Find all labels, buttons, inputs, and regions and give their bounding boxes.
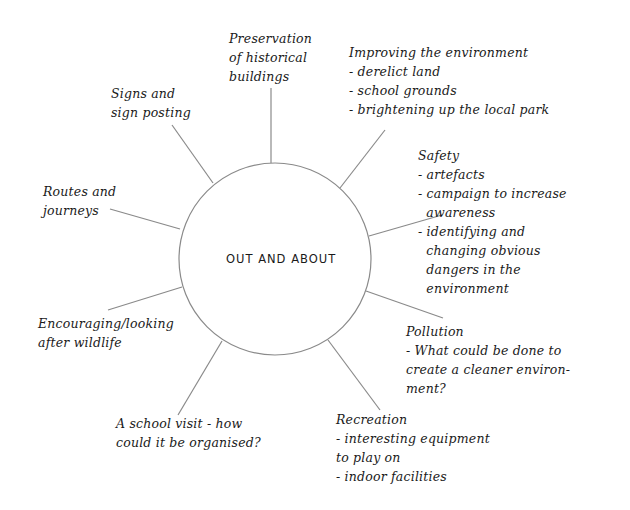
branch-text-line: to play on xyxy=(336,448,490,467)
branch-label-recreation: Recreation- interesting equipmentto play… xyxy=(336,410,490,486)
branch-text-line: buildings xyxy=(229,67,312,86)
branch-text-line: A school visit - how xyxy=(116,414,261,433)
branch-text-line: changing obvious xyxy=(418,241,567,260)
branch-label-pollution: Pollution- What could be done tocreate a… xyxy=(406,322,570,398)
branch-text-line: - interesting equipment xyxy=(336,429,490,448)
branch-label-preservation: Preservationof historicalbuildings xyxy=(229,29,312,86)
branch-text-line: - brightening up the local park xyxy=(349,100,549,119)
spoke-school-visit xyxy=(178,341,222,415)
branch-text-line: journeys xyxy=(43,201,116,220)
branch-text-line: Signs and xyxy=(111,84,191,103)
branch-text-line: - identifying and xyxy=(418,222,567,241)
branch-text-line: Routes and xyxy=(43,182,116,201)
branch-label-wildlife: Encouraging/lookingafter wildlife xyxy=(38,314,174,352)
branch-label-school-visit: A school visit - howcould it be organise… xyxy=(116,414,261,452)
spoke-wildlife xyxy=(108,287,182,310)
spoke-signs xyxy=(172,125,213,183)
branch-text-line: dangers in the xyxy=(418,260,567,279)
branch-text-line: Encouraging/looking xyxy=(38,314,174,333)
branch-text-line: create a cleaner environ- xyxy=(406,360,570,379)
branch-label-improving-environment: Improving the environment- derelict land… xyxy=(349,43,549,119)
spoke-routes xyxy=(110,209,180,229)
branch-text-line: - indoor facilities xyxy=(336,467,490,486)
branch-text-line: - campaign to increase xyxy=(418,184,567,203)
spoke-recreation xyxy=(328,340,380,410)
branch-text-line: Pollution xyxy=(406,322,570,341)
branch-text-line: Safety xyxy=(418,146,567,165)
spoke-improving-environment xyxy=(340,130,385,188)
branch-text-line: Recreation xyxy=(336,410,490,429)
branch-text-line: of historical xyxy=(229,48,312,67)
branch-text-line: awareness xyxy=(418,203,567,222)
branch-text-line: ment? xyxy=(406,379,570,398)
branch-text-line: Preservation xyxy=(229,29,312,48)
branch-text-line: - derelict land xyxy=(349,62,549,81)
branch-text-line: - school grounds xyxy=(349,81,549,100)
branch-label-safety: Safety- artefacts- campaign to increase … xyxy=(418,146,567,298)
branch-text-line: - What could be done to xyxy=(406,341,570,360)
branch-text-line: after wildlife xyxy=(38,333,174,352)
branch-text-line: environment xyxy=(418,279,567,298)
branch-text-line: Improving the environment xyxy=(349,43,549,62)
center-topic-label: OUT AND ABOUT xyxy=(226,252,336,266)
branch-text-line: - artefacts xyxy=(418,165,567,184)
branch-text-line: could it be organised? xyxy=(116,433,261,452)
branch-text-line: sign posting xyxy=(111,103,191,122)
branch-label-routes: Routes andjourneys xyxy=(43,182,116,220)
branch-label-signs: Signs andsign posting xyxy=(111,84,191,122)
